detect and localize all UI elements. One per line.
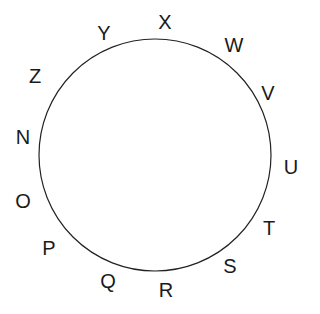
circle-label-n: N [16, 127, 30, 147]
circle-label-x: X [158, 12, 171, 32]
circle-label-u: U [284, 157, 298, 177]
main-circle-shape [39, 39, 271, 271]
circle-label-r: R [159, 280, 173, 300]
circle-label-y: Y [97, 23, 110, 43]
circle-label-s: S [223, 256, 236, 276]
circle-label-p: P [42, 238, 55, 258]
circle-outline-svg [0, 0, 320, 314]
circle-label-t: T [263, 218, 275, 238]
circle-label-w: W [225, 35, 244, 55]
circle-diagram: XWVUTSRQPONZY [0, 0, 320, 314]
circle-label-z: Z [29, 66, 41, 86]
circle-label-o: O [15, 191, 31, 211]
circle-label-q: Q [100, 271, 116, 291]
circle-label-v: V [261, 83, 274, 103]
